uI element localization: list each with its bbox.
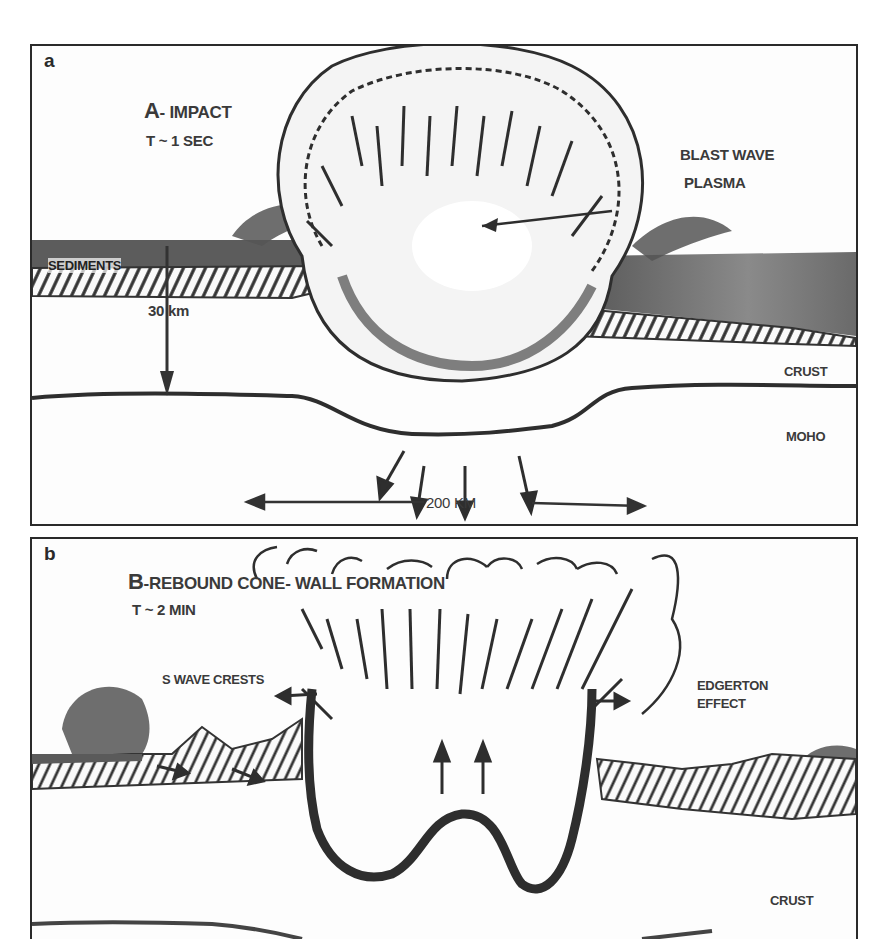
title-text: - IMPACT bbox=[160, 103, 232, 122]
ground-right-hatched bbox=[597, 754, 856, 819]
crust-boundary-right bbox=[642, 931, 712, 939]
label-crust-b: CRUST bbox=[770, 893, 813, 908]
moho-boundary bbox=[32, 385, 856, 435]
title-prefix: B bbox=[128, 569, 144, 594]
splash-left bbox=[62, 687, 150, 754]
rebound-illustration bbox=[32, 539, 856, 939]
panel-b-rebound: b B-REBOUND CONE- WALL FORMATION T ~ 2 M… bbox=[30, 537, 858, 939]
label-plasma: PLASMA bbox=[684, 174, 746, 191]
panel-b-time: T ~ 2 MIN bbox=[132, 601, 196, 618]
panel-a-title: A- IMPACT bbox=[144, 98, 231, 124]
panel-a-time: T ~ 1 SEC bbox=[146, 132, 213, 149]
plasma-core bbox=[412, 201, 532, 291]
crust-boundary-left bbox=[32, 922, 302, 939]
label-effect: EFFECT bbox=[697, 696, 746, 711]
panel-b-title: B-REBOUND CONE- WALL FORMATION bbox=[128, 569, 445, 595]
panel-label-b: b bbox=[44, 543, 55, 565]
panel-label-a: a bbox=[44, 50, 54, 72]
label-blast-wave: BLAST WAVE bbox=[680, 146, 774, 163]
crater-wall bbox=[309, 689, 592, 889]
title-text: -REBOUND CONE- WALL FORMATION bbox=[144, 574, 445, 593]
label-depth-30km: 30 km bbox=[148, 302, 189, 319]
label-edgerton: EDGERTON bbox=[697, 678, 768, 693]
title-prefix: A bbox=[144, 98, 160, 123]
panel-a-impact: a A- IMPACT T ~ 1 SEC BLAST WAVE PLASMA … bbox=[30, 44, 858, 526]
label-sediments: SEDIMENTS bbox=[48, 258, 121, 273]
ejecta-streaks bbox=[302, 589, 632, 719]
label-s-wave-crests: S WAVE CRESTS bbox=[162, 672, 264, 687]
label-scale-200km: 200 KM bbox=[426, 494, 476, 511]
label-crust-a: CRUST bbox=[784, 364, 827, 379]
rebound-arrows bbox=[435, 743, 490, 794]
label-moho: MOHO bbox=[786, 429, 825, 444]
